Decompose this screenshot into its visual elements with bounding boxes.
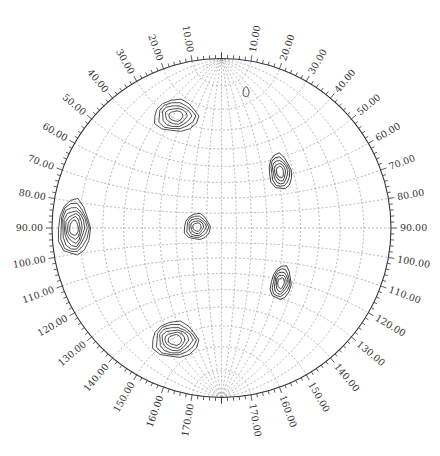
minor-tick — [66, 302, 69, 304]
major-tick — [388, 257, 394, 258]
major-tick — [161, 387, 163, 393]
rim-label-right-100: 100.00 — [396, 253, 431, 270]
major-tick — [109, 94, 113, 99]
contour-line — [243, 87, 249, 97]
contour-line — [275, 274, 288, 292]
minor-tick — [157, 68, 158, 71]
contour-line — [159, 103, 196, 129]
minor-tick — [85, 121, 88, 123]
minor-tick — [85, 332, 88, 334]
rim-label-right-120: 120.00 — [373, 312, 407, 338]
major-tick — [57, 286, 63, 288]
meridian-line — [176, 59, 221, 398]
minor-tick — [146, 380, 148, 383]
major-tick — [368, 140, 373, 143]
minor-tick — [355, 121, 358, 123]
minor-tick — [57, 280, 60, 281]
minor-tick — [257, 394, 258, 397]
major-tick — [49, 198, 55, 199]
minor-tick — [82, 328, 85, 330]
minor-tick — [362, 323, 365, 325]
minor-tick — [61, 163, 64, 164]
rim-label-right-130: 130.00 — [355, 338, 388, 368]
contour-line — [193, 223, 201, 232]
major-tick — [57, 168, 63, 170]
rim-label-right-160: 160.00 — [278, 394, 300, 429]
minor-tick — [379, 292, 382, 293]
minor-tick — [316, 369, 318, 372]
minor-tick — [263, 392, 264, 395]
rim-label-right-110: 110.00 — [387, 284, 422, 306]
minor-tick — [379, 163, 382, 164]
rim-label-left-170: 170.00 — [179, 403, 196, 438]
minor-tick — [101, 104, 103, 107]
rim-label-left-30: 30.00 — [114, 47, 137, 76]
major-tick — [330, 94, 334, 99]
minor-tick — [359, 126, 362, 128]
rim-label-right-50: 50.00 — [355, 91, 383, 117]
minor-tick — [274, 63, 275, 66]
minor-tick — [125, 85, 127, 88]
major-tick — [49, 257, 55, 258]
contour-peak-top-small — [243, 87, 249, 97]
major-tick — [306, 76, 309, 81]
minor-tick — [174, 391, 175, 394]
minor-tick — [186, 59, 187, 62]
minor-tick — [55, 180, 58, 181]
major-tick — [381, 168, 387, 170]
minor-tick — [290, 383, 291, 386]
rim-label-left-60: 60.00 — [41, 120, 70, 143]
minor-tick — [106, 99, 108, 102]
minor-tick — [168, 63, 169, 66]
minor-tick — [339, 350, 341, 353]
minor-tick — [55, 275, 58, 276]
minor-tick — [268, 62, 269, 65]
major-tick — [70, 313, 75, 316]
rim-label-left-90: 90.00 — [16, 222, 43, 233]
minor-tick — [130, 372, 132, 375]
contour-line — [153, 321, 199, 357]
minor-tick — [93, 341, 96, 343]
minor-tick — [301, 75, 303, 78]
contour-peak-left-rim — [58, 198, 90, 255]
major-tick — [87, 337, 92, 341]
minor-tick — [386, 186, 389, 187]
minor-tick — [321, 88, 323, 91]
minor-tick — [365, 136, 368, 138]
minor-tick — [387, 263, 390, 264]
rim-label-left-110: 110.00 — [21, 284, 56, 306]
minor-tick — [61, 292, 64, 293]
major-tick — [161, 63, 163, 69]
rim-label-right-90: 90.00 — [400, 222, 427, 233]
contour-line — [269, 155, 292, 187]
minor-tick — [66, 152, 69, 154]
rim-label-right-40: 40.00 — [332, 67, 358, 95]
minor-tick — [362, 131, 365, 133]
major-tick — [351, 337, 356, 341]
major-tick — [191, 395, 192, 401]
contour-peak-lower-left — [153, 321, 199, 357]
minor-tick — [52, 263, 55, 264]
rim-label-left-100: 100.00 — [12, 253, 47, 270]
contour-peak-upper-left — [155, 99, 199, 131]
major-tick — [279, 63, 281, 69]
minor-tick — [311, 81, 313, 84]
rim-label-right-150: 150.00 — [306, 380, 332, 414]
minor-tick — [321, 365, 323, 368]
minor-tick — [52, 192, 55, 193]
minor-tick — [316, 85, 318, 88]
minor-tick — [140, 75, 142, 78]
rim-label-right-60: 60.00 — [373, 120, 402, 143]
contour-line — [64, 211, 85, 247]
minor-tick — [78, 131, 81, 133]
major-tick — [251, 395, 252, 401]
minor-tick — [120, 88, 122, 91]
minor-tick — [54, 269, 57, 270]
minor-tick — [101, 350, 103, 353]
minor-tick — [383, 175, 386, 176]
minor-tick — [376, 297, 379, 298]
minor-tick — [343, 346, 346, 348]
minor-tick — [371, 308, 374, 310]
minor-tick — [339, 104, 341, 107]
rim-label-left-20: 20.00 — [146, 33, 166, 62]
